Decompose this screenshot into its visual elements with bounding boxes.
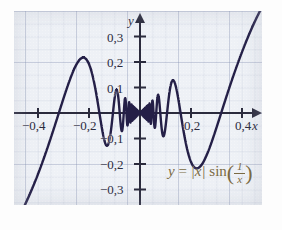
figure-page: −0,4 −0,2 0,2 0,4 0,1 0,2 0,3 −0,1 −0,2 … xyxy=(0,0,282,230)
formula-sin: sin xyxy=(209,163,227,179)
formula-paren-close: ) xyxy=(245,160,252,185)
x-axis-arrow xyxy=(252,108,262,118)
xtick-label-neg-0-4: −0,4 xyxy=(22,119,46,132)
formula-fraction: 1x xyxy=(234,161,245,185)
ytick-label-0-3: 0,3 xyxy=(107,31,123,44)
x-axis-name: x xyxy=(252,118,258,134)
ytick-label-neg-0-3: −0,3 xyxy=(100,183,124,196)
formula-denominator: x xyxy=(237,174,242,186)
ytick-label-0-1: 0,1 xyxy=(107,82,123,95)
y-axis-arrow xyxy=(135,13,145,23)
formula-y: y xyxy=(168,163,175,179)
xtick-label-0-4: 0,4 xyxy=(235,119,251,132)
ytick-label-neg-0-1: −0,1 xyxy=(100,132,124,145)
ytick-label-0-2: 0,2 xyxy=(107,56,123,69)
ytick-label-neg-0-2: −0,2 xyxy=(100,158,124,171)
formula-abs-x: |x| xyxy=(191,163,206,179)
formula-equals: = xyxy=(178,163,186,179)
formula-annotation: y = |x| sin(1x) xyxy=(168,160,252,186)
xtick-label-0-2: 0,2 xyxy=(184,119,200,132)
formula-paren-open: ( xyxy=(227,160,234,185)
formula-numerator: 1 xyxy=(237,161,243,173)
xtick-label-neg-0-2: −0,2 xyxy=(73,119,97,132)
y-axis-name: y xyxy=(128,13,134,29)
